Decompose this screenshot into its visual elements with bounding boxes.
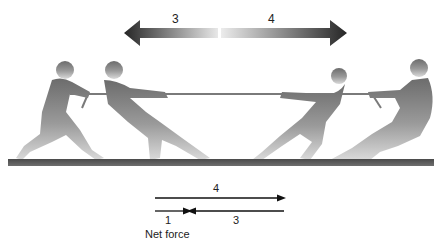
force-label-right: 4 [268, 13, 275, 25]
net-force-caption: Net force [145, 229, 190, 240]
vector-arrow-1-right [155, 208, 192, 215]
tug-of-war-illustration [0, 0, 447, 251]
vector-label-1: 1 [165, 215, 171, 226]
ground [8, 159, 434, 166]
puller-figure-1 [16, 61, 104, 160]
vector-label-3: 3 [233, 215, 239, 226]
vector-arrow-4-right [155, 195, 286, 202]
force-label-left: 3 [172, 13, 179, 25]
vector-label-4: 4 [213, 183, 219, 194]
puller-figure-3 [252, 68, 347, 160]
force-arrow-right [221, 20, 347, 46]
force-arrow-left [124, 20, 218, 46]
puller-figure-2 [104, 61, 210, 160]
